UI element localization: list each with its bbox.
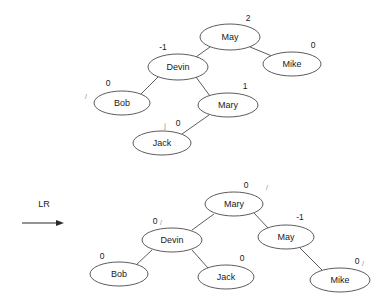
balance-factor-jack-top: 0 (176, 118, 181, 128)
after-tree-nodes: Mary0Devin0May-1Bob0Jack0Mike0 (90, 180, 370, 292)
scan-artifact-mark: j (163, 122, 166, 130)
node-name-label-mike-top: Mike (282, 59, 301, 69)
node-name-label-may-top: May (221, 32, 239, 42)
tree-node-mike-top: Mike0 (263, 40, 321, 76)
node-name-label-devin-bot: Devin (160, 235, 183, 245)
tree-edge-devin-top-to-bob-top (141, 77, 158, 94)
balance-factor-mike-top: 0 (311, 40, 316, 50)
tree-node-devin-top: Devin-1 (148, 42, 208, 80)
balance-factor-may-top: 2 (246, 13, 251, 23)
tree-edge-may-top-to-mike-top (250, 47, 272, 56)
tree-edge-devin-top-to-mary-top (196, 77, 210, 96)
tree-node-may-bot: May-1 (258, 212, 314, 249)
tree-node-mary-top: Mary1 (198, 81, 258, 117)
balance-factor-bob-top: 0 (106, 78, 111, 88)
diagram-canvas: May2Devin-1Mike0Bob0Mary1Jack0 /j LR Mar… (0, 0, 387, 305)
node-name-label-jack-top: Jack (153, 138, 172, 148)
node-name-label-mike-bot: Mike (330, 275, 349, 285)
balance-factor-mary-bot: 0 (244, 180, 249, 190)
node-name-label-jack-bot: Jack (217, 272, 236, 282)
balance-factor-mike-bot: 0 (355, 256, 360, 266)
node-name-label-bob-bot: Bob (111, 269, 127, 279)
node-name-label-devin-top: Devin (166, 62, 189, 72)
balance-factor-may-bot: -1 (296, 212, 304, 222)
lr-rotation-arrow: LR (22, 199, 64, 226)
tree-edge-mary-top-to-jack-top (182, 115, 209, 134)
scan-artifact-mark: / (85, 93, 87, 100)
balance-factor-bob-bot: 0 (100, 251, 105, 261)
tree-node-devin-bot: Devin0 (142, 216, 202, 252)
balance-factor-jack-bot: 0 (240, 253, 245, 263)
tree-node-bob-top: Bob0 (94, 78, 150, 115)
tree-edge-mary-bot-to-may-bot (254, 213, 268, 228)
scan-artifact-mark: / (266, 184, 268, 191)
avl-rotation-diagram: May2Devin-1Mike0Bob0Mary1Jack0 /j LR Mar… (0, 0, 387, 305)
tree-node-bob-bot: Bob0 (90, 251, 148, 286)
tree-edge-may-bot-to-mike-bot (300, 248, 322, 270)
arrow-head-icon (56, 220, 64, 226)
tree-node-mike-bot: Mike0 (310, 256, 370, 292)
tree-node-jack-bot: Jack0 (198, 253, 254, 289)
after-tree-artifacts: /// (160, 184, 364, 267)
scan-artifact-mark: / (362, 260, 364, 267)
node-name-label-bob-top: Bob (114, 98, 130, 108)
node-name-label-may-bot: May (277, 232, 295, 242)
tree-node-mary-bot: Mary0 (205, 180, 263, 216)
node-name-label-mary-top: Mary (218, 100, 238, 110)
node-name-label-mary-bot: Mary (224, 199, 244, 209)
balance-factor-mary-top: 1 (243, 81, 248, 91)
balance-factor-devin-top: -1 (159, 42, 167, 52)
before-tree-nodes: May2Devin-1Mike0Bob0Mary1Jack0 (94, 13, 321, 155)
balance-factor-devin-bot: 0 (153, 216, 158, 226)
tree-node-may-top: May2 (200, 13, 260, 50)
tree-node-jack-top: Jack0 (133, 118, 191, 155)
tree-edge-devin-bot-to-jack-bot (192, 250, 208, 268)
rotation-type-label: LR (38, 199, 50, 209)
tree-edge-devin-bot-to-bob-bot (136, 250, 152, 265)
scan-artifact-mark: / (160, 219, 162, 226)
tree-edge-mary-bot-to-devin-bot (192, 214, 214, 230)
tree-edge-may-top-to-devin-top (196, 47, 210, 57)
